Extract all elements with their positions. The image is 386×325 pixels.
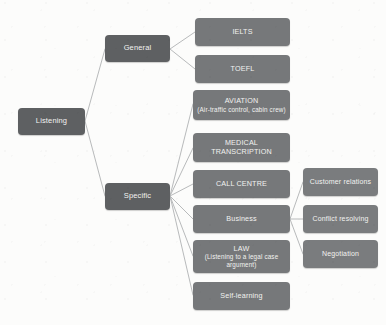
node-negotiation[interactable]: Negotiation <box>303 240 378 268</box>
node-aviation-label: AVIATION <box>196 97 287 105</box>
node-ielts[interactable]: IELTS <box>195 18 290 46</box>
node-listening[interactable]: Listening <box>18 108 85 135</box>
node-specific-label: Specific <box>108 192 167 200</box>
node-general[interactable]: General <box>105 35 170 62</box>
edge-business-negotiation <box>290 219 303 254</box>
node-self-learning[interactable]: Self-learning <box>193 282 290 310</box>
node-self-learning-label: Self-learning <box>196 292 287 300</box>
node-call-centre[interactable]: CALL CENTRE <box>193 170 290 198</box>
node-listening-label: Listening <box>21 117 82 125</box>
edge-specific-business <box>170 196 193 219</box>
edge-specific-self-learning <box>170 196 193 295</box>
node-law-sublabel: (Listening to a legal case argument) <box>196 253 287 267</box>
node-conflict-resolving[interactable]: Conflict resolving <box>303 205 378 233</box>
node-specific[interactable]: Specific <box>105 183 170 210</box>
node-toefl[interactable]: TOEFL <box>195 55 290 83</box>
node-toefl-label: TOEFL <box>198 65 287 73</box>
edge-root-specific <box>85 121 105 196</box>
node-law-label: LAW <box>196 245 287 253</box>
node-business[interactable]: Business <box>193 205 290 233</box>
edge-business-customer-relations <box>290 182 303 219</box>
node-aviation[interactable]: AVIATION (Air-traffic control, cabin cre… <box>193 90 290 120</box>
node-business-label: Business <box>196 215 287 223</box>
edge-specific-aviation <box>170 104 193 196</box>
edge-specific-medical <box>170 148 193 196</box>
node-customer-relations-label: Customer relations <box>306 178 375 186</box>
node-general-label: General <box>108 44 167 52</box>
node-law[interactable]: LAW (Listening to a legal case argument) <box>193 240 290 273</box>
node-conflict-resolving-label: Conflict resolving <box>306 215 375 223</box>
edge-root-general <box>85 49 105 121</box>
node-ielts-label: IELTS <box>198 28 287 36</box>
node-medical-transcription-label: MEDICAL TRANSCRIPTION <box>196 139 287 155</box>
listening-tree-diagram: Listening General Specific IELTS TOEFL A… <box>0 0 386 325</box>
node-medical-transcription[interactable]: MEDICAL TRANSCRIPTION <box>193 133 290 162</box>
edge-general-toefl <box>170 49 195 69</box>
node-customer-relations[interactable]: Customer relations <box>303 168 378 196</box>
node-aviation-sublabel: (Air-traffic control, cabin crew) <box>196 106 287 113</box>
node-call-centre-label: CALL CENTRE <box>196 180 287 188</box>
edge-general-ielts <box>170 32 195 49</box>
edge-specific-call-centre <box>170 184 193 196</box>
connector-lines <box>0 0 386 325</box>
node-negotiation-label: Negotiation <box>306 250 375 258</box>
